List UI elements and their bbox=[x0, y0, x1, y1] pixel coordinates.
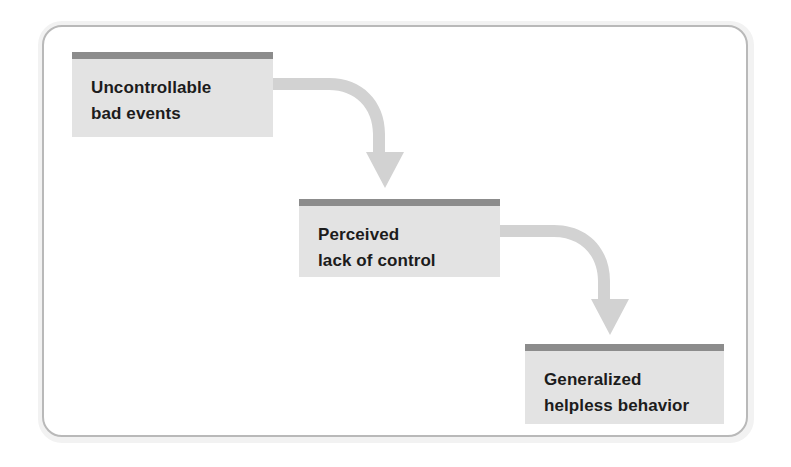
flow-node-uncontrollable-bad-events: Uncontrollable bad events bbox=[72, 52, 273, 137]
flow-node-label: Uncontrollable bad events bbox=[91, 75, 263, 127]
flow-node-label: Generalized helpless behavior bbox=[544, 367, 714, 419]
flow-node-perceived-lack-of-control: Perceived lack of control bbox=[299, 199, 500, 277]
flow-node-label: Perceived lack of control bbox=[318, 222, 490, 274]
figure-root: Uncontrollable bad events Perceived lack… bbox=[0, 0, 791, 467]
flow-node-generalized-helpless-behavior: Generalized helpless behavior bbox=[525, 344, 724, 424]
